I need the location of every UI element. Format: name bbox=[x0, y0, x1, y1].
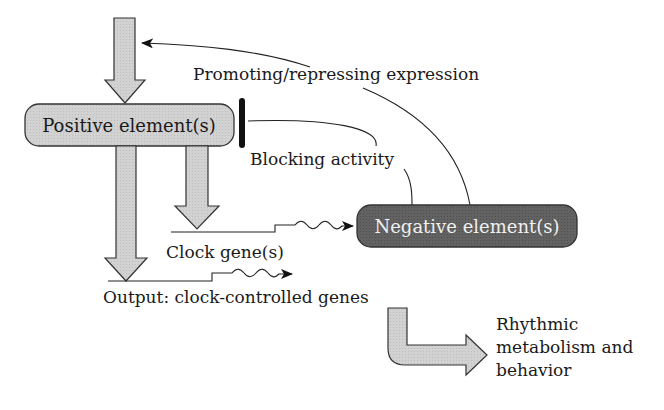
promoting-repressing-line-lower bbox=[363, 88, 470, 205]
clock-genes-block-arrow bbox=[175, 146, 219, 229]
positive-element-node: Positive element(s) bbox=[25, 104, 234, 146]
blocking-activity-label: Blocking activity bbox=[250, 149, 394, 169]
output-block-arrow bbox=[105, 146, 147, 281]
rhythmic-label-line1: Rhythmic bbox=[496, 314, 578, 334]
blocking-activity-line-lower bbox=[404, 169, 412, 205]
output-genes-label: Output: clock-controlled genes bbox=[103, 287, 369, 307]
rhythmic-label-line3: behavior bbox=[496, 360, 572, 380]
positive-element-label: Positive element(s) bbox=[42, 115, 216, 136]
inhibition-bar bbox=[239, 98, 245, 148]
negative-element-node: Negative element(s) bbox=[357, 205, 577, 247]
clock-diagram: Positive element(s) Blocking activity Pr… bbox=[0, 0, 664, 410]
promoting-repressing-label: Promoting/repressing expression bbox=[193, 64, 479, 84]
input-block-arrow bbox=[105, 18, 145, 103]
negative-element-label: Negative element(s) bbox=[374, 216, 559, 237]
clock-genes-label: Clock gene(s) bbox=[166, 242, 284, 262]
blocking-activity-line bbox=[248, 120, 376, 146]
rhythmic-output-bent-arrow bbox=[388, 308, 487, 375]
rhythmic-label-line2: metabolism and bbox=[496, 337, 633, 357]
